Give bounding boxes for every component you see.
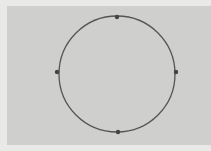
handle-top[interactable]	[115, 15, 119, 19]
handle-right[interactable]	[174, 70, 178, 74]
handle-bottom[interactable]	[116, 130, 120, 134]
diagram-svg	[0, 0, 211, 151]
handle-left[interactable]	[55, 70, 59, 74]
circle-shape[interactable]	[59, 16, 175, 132]
